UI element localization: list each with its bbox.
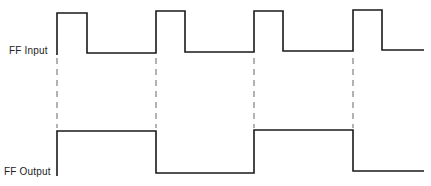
ff-input-waveform xyxy=(57,10,424,55)
timing-diagram xyxy=(0,0,431,186)
clock-edge-guides xyxy=(57,58,353,128)
ff-output-waveform xyxy=(57,130,424,176)
